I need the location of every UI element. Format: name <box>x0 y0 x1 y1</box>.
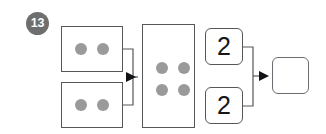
dot <box>178 62 190 74</box>
number-tile-bottom: 2 <box>205 87 243 124</box>
dot <box>75 43 87 55</box>
answer-box[interactable] <box>272 57 309 94</box>
number-tile-top: 2 <box>205 28 243 65</box>
connector-left-bottom <box>123 77 133 105</box>
dot-group-bottom <box>75 99 109 111</box>
dot <box>75 99 87 111</box>
dot-group-total <box>156 62 190 96</box>
worksheet-canvas: 13 2 2 <box>0 0 326 134</box>
question-number-badge: 13 <box>26 12 49 35</box>
dot <box>97 43 109 55</box>
connector-left-top <box>123 49 133 77</box>
dot <box>97 99 109 111</box>
arrow-right-icon-left <box>126 72 136 82</box>
dot <box>156 84 168 96</box>
dot <box>156 62 168 74</box>
dot-group-top <box>75 43 109 55</box>
arrow-right-icon-right <box>259 71 269 81</box>
dot <box>178 84 190 96</box>
connector-right-top <box>243 47 253 76</box>
connector-right-bottom <box>243 76 253 106</box>
